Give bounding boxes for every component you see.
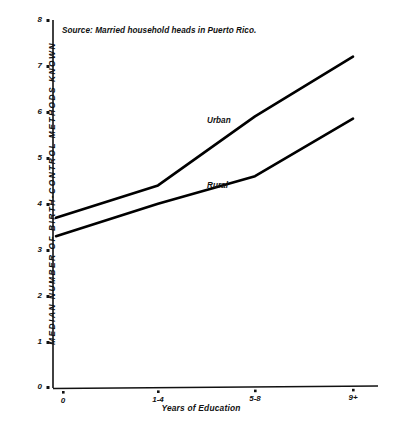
x-axis-title: Years of Education (0, 403, 402, 413)
x-tick-marks (62, 389, 355, 394)
x-axis-line (53, 386, 378, 389)
series-line-rural (56, 119, 353, 237)
chart-figure: 8 7 6 5 4 3 2 1 0 0 1-4 5-8 9+ Source: M… (0, 0, 402, 424)
y-tick-label-8: 8 (28, 15, 42, 24)
y-tick-label-7: 7 (28, 61, 42, 70)
y-tick-label-1: 1 (28, 337, 42, 346)
y-tick-label-6: 6 (28, 107, 42, 116)
y-axis-title: MEDIAN NUMBER OF BIRTH-CONTROL METHODS K… (47, 65, 57, 345)
chart-plot-area (0, 0, 402, 424)
source-note: Source: Married household heads in Puert… (62, 26, 256, 35)
y-tick-label-0: 0 (28, 382, 42, 391)
x-tick-label-9plus: 9+ (333, 393, 373, 402)
x-tick-label-5-8: 5-8 (235, 394, 275, 403)
series-label-urban: Urban (207, 116, 231, 125)
y-tick-label-3: 3 (28, 245, 42, 254)
series-line-urban (56, 57, 353, 218)
series-label-rural: Rural (207, 181, 228, 190)
y-tick-label-5: 5 (28, 153, 42, 162)
y-tick-label-2: 2 (28, 291, 42, 300)
y-tick-label-4: 4 (28, 199, 42, 208)
